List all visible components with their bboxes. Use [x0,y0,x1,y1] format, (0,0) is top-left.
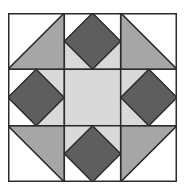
block-bottom-right [121,126,177,182]
block-bottom-center [64,126,120,182]
canvas [0,0,188,196]
quilt-block-figure [8,13,177,182]
block-middle-right [121,69,177,125]
block-middle-left [8,69,64,125]
block-top-right [121,13,177,69]
block-top-center [64,13,120,69]
block-bottom-left [8,126,64,182]
block-top-left [8,13,64,69]
block-center [64,69,120,125]
quilt-svg [8,13,177,182]
